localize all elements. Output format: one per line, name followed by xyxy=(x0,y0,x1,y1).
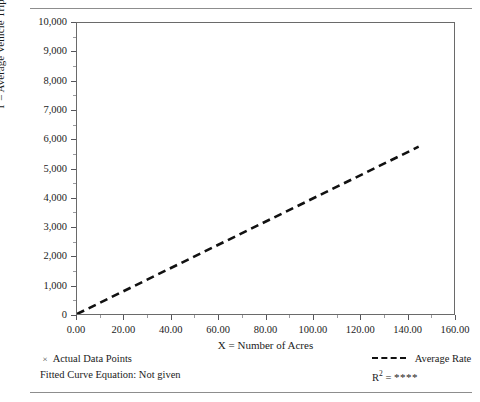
y-axis-tick-label: 9,000 xyxy=(10,46,67,57)
data-point-marker xyxy=(106,281,111,286)
data-point-marker xyxy=(93,291,98,296)
x-axis-minor-tick xyxy=(242,315,243,318)
data-point-marker xyxy=(110,278,115,283)
data-point-marker xyxy=(319,304,324,309)
y-axis-minor-tick xyxy=(73,271,76,272)
y-axis-tick xyxy=(71,256,76,257)
data-point-marker xyxy=(78,305,83,310)
data-point-marker xyxy=(96,287,101,292)
fitted-curve-equation: Fitted Curve Equation: Not given xyxy=(40,369,181,380)
x-axis-tick xyxy=(76,315,77,320)
data-point-marker xyxy=(88,296,93,301)
y-axis-minor-tick xyxy=(73,183,76,184)
x-axis-tick xyxy=(218,315,219,320)
dashed-line-icon xyxy=(372,357,406,359)
data-point-marker xyxy=(121,269,126,274)
x-axis-tick xyxy=(266,315,267,320)
y-axis-minor-tick xyxy=(73,95,76,96)
data-point-marker xyxy=(107,286,112,291)
data-point-marker xyxy=(169,281,174,286)
legend-data-points-label: Actual Data Points xyxy=(53,353,132,364)
y-axis-tick xyxy=(71,110,76,111)
data-point-marker xyxy=(124,293,129,298)
figure-rule-top xyxy=(30,8,472,9)
data-point-marker xyxy=(145,263,150,268)
data-point-marker xyxy=(143,285,148,290)
data-point-marker xyxy=(83,304,88,309)
legend-entry-average-rate: Average Rate xyxy=(372,352,471,364)
chart-canvas xyxy=(77,23,454,314)
y-axis-minor-tick xyxy=(73,154,76,155)
x-axis-minor-tick xyxy=(384,315,385,318)
figure-rule-bottom xyxy=(30,392,472,393)
data-point-marker xyxy=(197,306,202,311)
y-axis-tick-label: 6,000 xyxy=(10,134,67,145)
r-squared-value: **** xyxy=(394,371,418,383)
data-point-marker xyxy=(173,297,178,302)
y-axis-tick xyxy=(71,169,76,170)
data-point-marker xyxy=(376,304,381,309)
legend-row-secondary: Fitted Curve Equation: Not given R2 = **… xyxy=(40,369,464,384)
y-axis-tick-label: 0 xyxy=(10,310,67,321)
x-axis-tick xyxy=(171,315,172,320)
y-axis-minor-tick xyxy=(73,125,76,126)
y-axis-tick-label: 3,000 xyxy=(10,222,67,233)
data-point-marker xyxy=(341,55,346,60)
r-squared-readout: R2 = **** xyxy=(372,369,418,383)
data-point-marker xyxy=(123,283,128,288)
data-point-marker xyxy=(91,293,96,298)
data-point-marker xyxy=(84,299,89,304)
y-axis-tick xyxy=(71,227,76,228)
data-point-marker xyxy=(251,33,256,38)
data-point-marker xyxy=(79,304,84,309)
data-point-marker xyxy=(150,266,155,271)
data-point-marker xyxy=(146,201,151,206)
average-rate-trendline xyxy=(77,147,419,314)
data-point-marker xyxy=(133,273,138,278)
data-point-marker xyxy=(141,270,146,275)
y-axis-tick xyxy=(71,286,76,287)
x-axis-minor-tick xyxy=(194,315,195,318)
cut-off-header-text xyxy=(60,0,300,7)
y-axis-minor-tick xyxy=(73,37,76,38)
data-point-marker xyxy=(303,279,308,284)
data-point-marker xyxy=(129,300,134,305)
x-axis-minor-tick xyxy=(431,315,432,318)
y-axis-tick xyxy=(71,198,76,199)
x-axis-tick xyxy=(360,315,361,320)
average-rate-line xyxy=(77,147,419,314)
data-point-marker xyxy=(90,299,95,304)
y-axis-tick xyxy=(71,51,76,52)
chart-legend: × Actual Data Points Average Rate Fitted… xyxy=(40,352,464,386)
data-point-marker xyxy=(99,279,104,284)
data-point-marker xyxy=(140,247,145,252)
data-point-marker xyxy=(98,293,103,298)
r-squared-prefix: R xyxy=(372,372,379,383)
data-point-marker xyxy=(108,299,113,304)
data-point-marker xyxy=(164,276,169,281)
data-point-marker xyxy=(126,277,131,282)
y-axis-tick-label: 7,000 xyxy=(10,105,67,116)
data-point-marker xyxy=(112,283,117,288)
data-point-marker xyxy=(136,296,141,301)
data-point-marker xyxy=(180,306,185,311)
data-point-marker xyxy=(82,301,87,306)
data-point-marker xyxy=(159,286,164,291)
data-point-marker xyxy=(117,275,122,280)
data-point-marker xyxy=(105,293,110,298)
data-point-marker xyxy=(104,277,109,282)
data-point-marker xyxy=(147,186,152,191)
x-axis-tick xyxy=(123,315,124,320)
y-axis-title: T = Average Vehicle Trip Ends xyxy=(0,0,6,110)
data-point-marker xyxy=(411,97,416,102)
x-axis-minor-tick xyxy=(337,315,338,318)
y-axis-tick xyxy=(71,139,76,140)
figure-page: 01,0002,0003,0004,0005,0006,0007,0008,00… xyxy=(0,0,480,402)
x-axis-minor-tick xyxy=(147,315,148,318)
x-axis-minor-tick xyxy=(100,315,101,318)
r-squared-exponent: 2 xyxy=(379,369,383,378)
data-point-marker xyxy=(95,295,100,300)
y-axis-minor-tick xyxy=(73,66,76,67)
y-axis-minor-tick xyxy=(73,300,76,301)
x-axis-title: X = Number of Acres xyxy=(76,339,455,351)
